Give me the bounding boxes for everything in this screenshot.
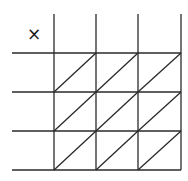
lattice-grid <box>0 0 188 181</box>
cell-diagonal <box>96 131 138 170</box>
cell-diagonal <box>54 92 96 131</box>
cell-diagonal <box>96 53 138 92</box>
cell-diagonal <box>138 131 181 170</box>
cell-diagonal <box>54 131 96 170</box>
cell-diagonal <box>138 92 181 131</box>
cell-diagonal <box>54 53 96 92</box>
cell-diagonal <box>96 92 138 131</box>
cell-diagonal <box>138 53 181 92</box>
